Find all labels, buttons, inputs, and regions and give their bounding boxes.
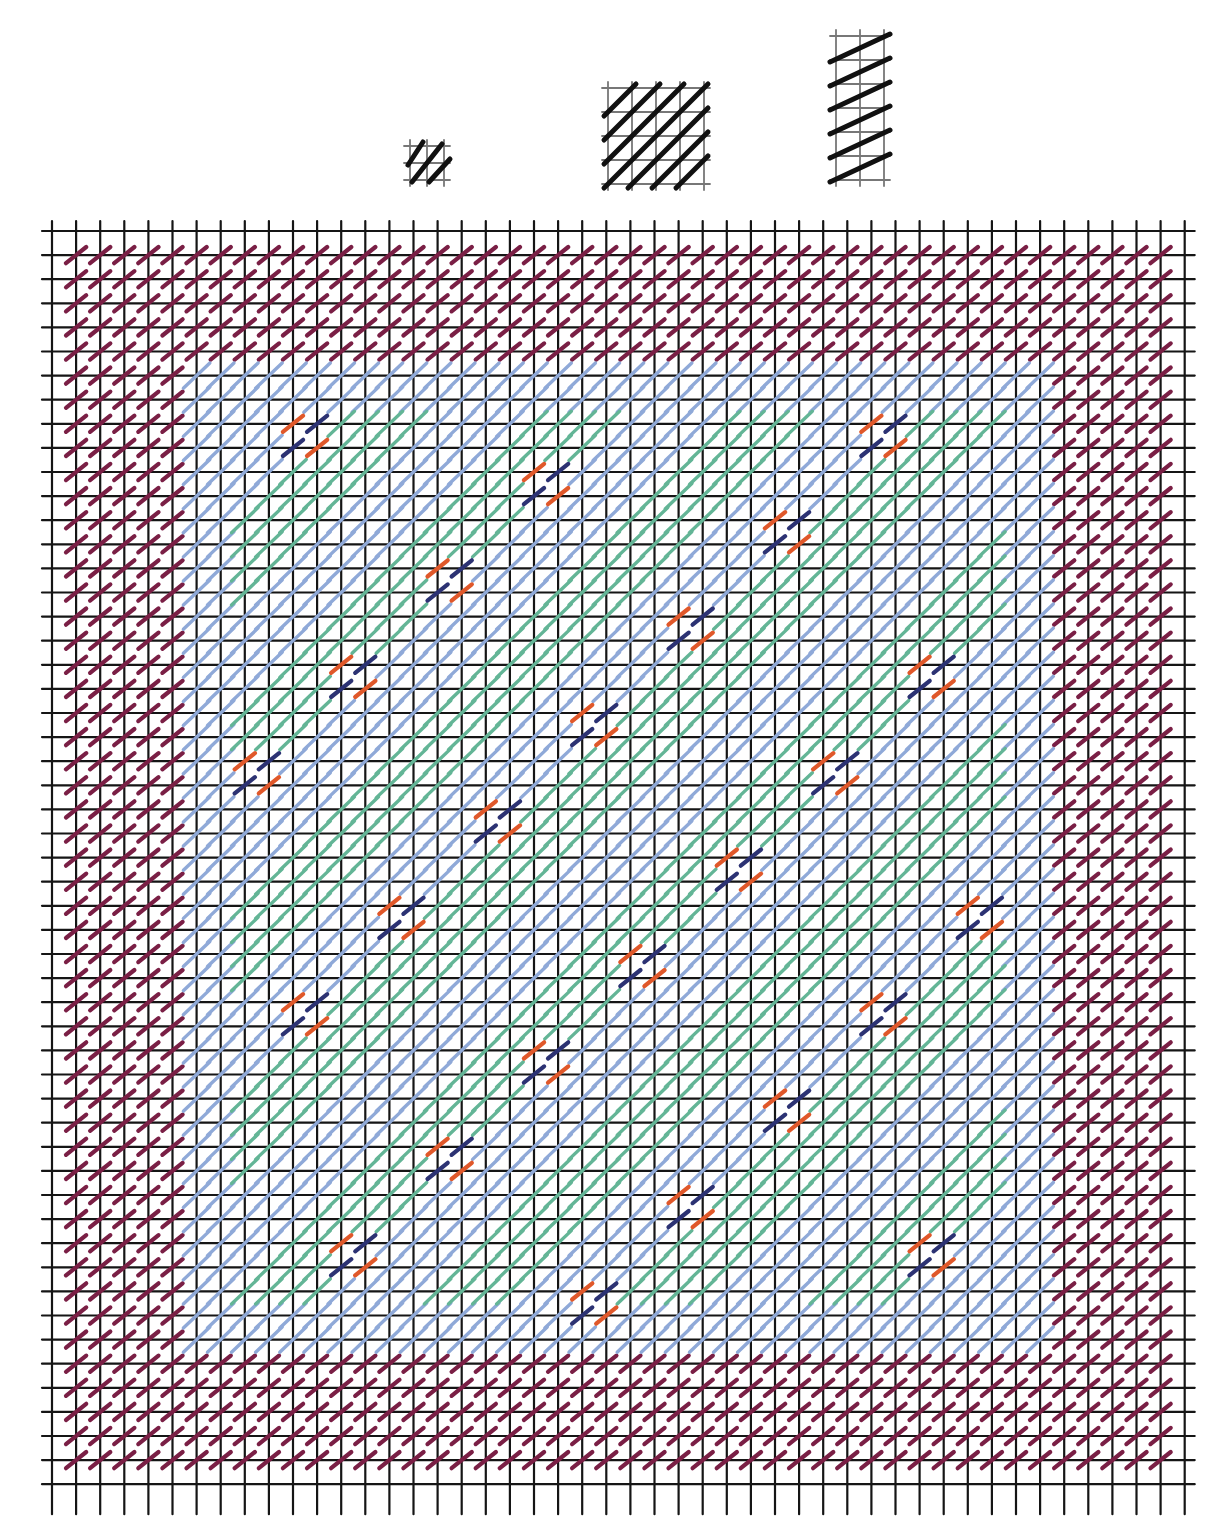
stitch-diagram [0,0,1228,1525]
stitch-chart-grid [0,0,1228,1525]
